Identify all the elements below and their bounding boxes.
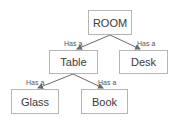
edge-label-table-book: Has a (98, 79, 116, 86)
edge-room-desk (110, 35, 140, 49)
edge-label-room-desk: Has a (137, 40, 155, 47)
node-desk-label: Desk (131, 56, 156, 68)
node-glass-label: Glass (21, 96, 49, 108)
node-room: ROOM (88, 10, 132, 35)
node-glass: Glass (11, 89, 59, 114)
node-book: Book (81, 89, 128, 114)
edge-label-table-glass: Has a (26, 79, 44, 86)
node-table: Table (49, 50, 98, 74)
diagram-canvas: Has a Has a Has a Has a ROOM Table Desk … (0, 0, 179, 123)
edge-label-room-table: Has a (64, 40, 82, 47)
node-room-label: ROOM (93, 17, 127, 29)
node-book-label: Book (92, 96, 117, 108)
node-desk: Desk (119, 50, 168, 74)
node-table-label: Table (60, 56, 86, 68)
